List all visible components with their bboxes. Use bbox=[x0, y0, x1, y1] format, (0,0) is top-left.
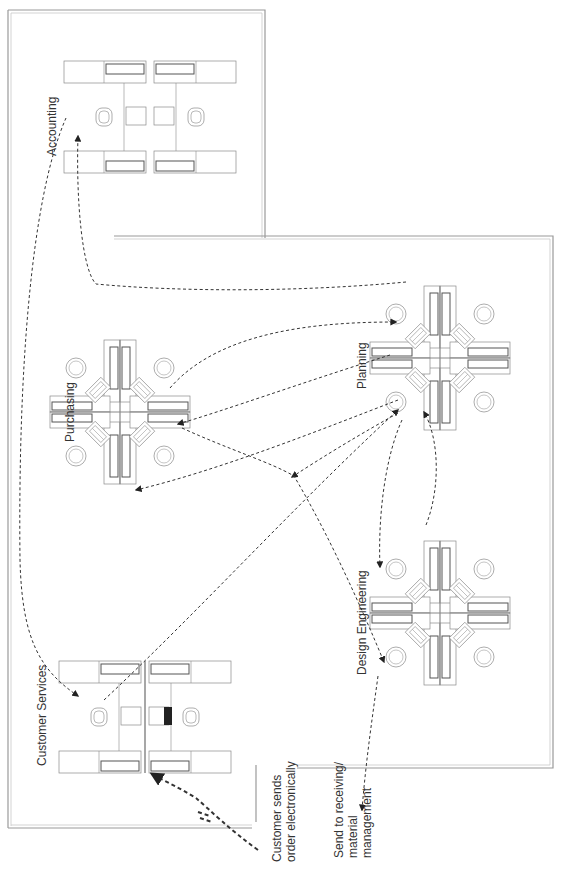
label-customer-services: Customer Services bbox=[35, 665, 49, 766]
flow-purchasing-to-design-engineering bbox=[182, 428, 384, 662]
label-accounting: Accounting bbox=[45, 97, 59, 156]
customer-services-workstations bbox=[59, 661, 231, 773]
label-send-to-receiving-3: management bbox=[360, 787, 374, 858]
label-customer-sends-1: Customer sends bbox=[270, 775, 284, 862]
flow-planning-to-purchasing-3 bbox=[292, 413, 398, 477]
design-engineering-workstations bbox=[370, 541, 510, 685]
label-send-to-receiving-1: Send to receiving/ bbox=[332, 761, 346, 858]
label-planning: Planning bbox=[355, 342, 369, 389]
workflow-arrows bbox=[20, 118, 436, 850]
flow-planning-to-design-engineering bbox=[380, 420, 402, 567]
planning-workstations bbox=[370, 286, 510, 430]
labels: Accounting Purchasing Planning Design En… bbox=[35, 97, 374, 862]
label-customer-sends-2: order electronically bbox=[284, 761, 298, 862]
label-purchasing: Purchasing bbox=[63, 382, 77, 442]
label-design-engineering: Design Engineering bbox=[355, 570, 369, 675]
flow-customer-tick bbox=[198, 812, 210, 816]
label-send-to-receiving-2: material bbox=[346, 815, 360, 858]
flow-customer-tick-2 bbox=[200, 818, 212, 822]
floor-plan: Accounting Purchasing Planning Design En… bbox=[0, 0, 574, 871]
accounting-workstations bbox=[64, 61, 236, 173]
flow-customer-to-customer-services bbox=[152, 774, 258, 850]
flow-customer-services-to-planning bbox=[104, 410, 398, 700]
